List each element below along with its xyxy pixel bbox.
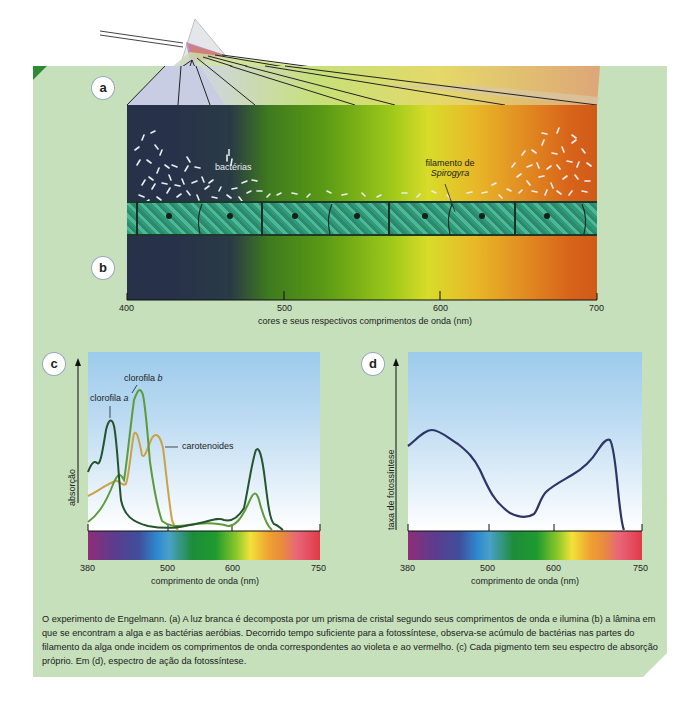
bacteria-label: bactérias <box>215 162 252 172</box>
label-badge-a: a <box>92 77 114 99</box>
legend-chlorophyll-a-text: clorofila <box>90 393 124 403</box>
c-x-tick-600: 600 <box>225 563 240 573</box>
label-badge-c: c <box>43 353 65 375</box>
legend-chlorophyll-b: clorofila b <box>124 373 163 383</box>
x-tick-600: 600 <box>433 303 448 313</box>
x-tick-400: 400 <box>119 303 134 313</box>
d-x-tick-500: 500 <box>480 563 495 573</box>
legend-carotenoids: carotenoides <box>182 441 234 451</box>
x-tick-700: 700 <box>589 303 604 313</box>
legend-chlorophyll-b-letter: b <box>158 373 163 383</box>
filament-label: filamento de Spirogyra <box>415 158 485 178</box>
c-x-tick-750: 750 <box>311 563 326 573</box>
action-y-label: taxa de fotossíntese <box>386 449 396 530</box>
legend-chlorophyll-a: clorofila a <box>90 393 129 403</box>
legend-chlorophyll-b-text: clorofila <box>124 373 158 383</box>
spectrum-x-label: cores e seus respectivos comprimentos de… <box>200 316 530 326</box>
action-chart-area <box>408 352 642 531</box>
figure-caption: O experimento de Engelmann. (a) A luz br… <box>42 612 662 668</box>
filament-cells <box>127 201 597 236</box>
legend-chlorophyll-a-letter: a <box>124 393 129 403</box>
d-x-label: comprimento de onda (nm) <box>440 576 610 586</box>
filament-label-line2: Spirogyra <box>415 168 485 178</box>
absorption-spectrum-bar <box>88 531 320 560</box>
d-x-tick-750: 750 <box>633 563 648 573</box>
label-badge-d: d <box>362 353 384 375</box>
d-x-tick-380: 380 <box>400 563 415 573</box>
absorption-y-label: absorção <box>67 469 77 506</box>
d-x-tick-600: 600 <box>546 563 561 573</box>
action-spectrum-bar <box>408 531 642 560</box>
x-tick-500: 500 <box>277 303 292 313</box>
c-x-label: comprimento de onda (nm) <box>120 576 290 586</box>
action-chart <box>0 0 1 1</box>
filament-label-line1: filamento de <box>415 158 485 168</box>
c-x-tick-380: 380 <box>80 563 95 573</box>
c-x-tick-500: 500 <box>160 563 175 573</box>
label-badge-b: b <box>92 257 114 279</box>
